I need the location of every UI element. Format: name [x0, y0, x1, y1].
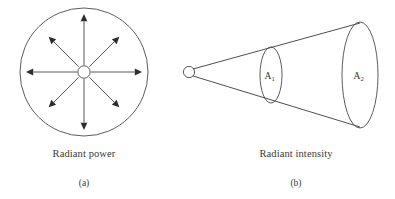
label-a1: A1	[265, 71, 275, 83]
panel-a-diagram	[20, 8, 148, 136]
label-a1-subscript: 1	[271, 75, 274, 82]
radiant-arrow-south	[81, 79, 88, 130]
figure-container: A1 A2 Radiant power Radiant intensity (a…	[0, 0, 395, 199]
panel-b-diagram: A1 A2	[183, 22, 378, 128]
cone-apex-circle	[183, 66, 194, 77]
radiant-arrow-west	[26, 69, 77, 76]
panel-b-tag: (b)	[216, 178, 376, 188]
radiant-arrow-northwest	[49, 37, 79, 67]
point-source-circle	[78, 66, 90, 78]
label-a2: A2	[354, 71, 364, 83]
radiant-arrow-north	[81, 14, 88, 65]
cone-edge-upper	[193, 23, 360, 69]
figure-vector-canvas: A1 A2	[0, 0, 395, 199]
panel-b-caption: Radiant intensity	[216, 148, 376, 159]
radiant-arrow-northeast	[89, 37, 119, 67]
cone-edge-lower	[193, 76, 360, 127]
radiant-arrow-east	[91, 69, 142, 76]
radiant-arrow-southeast	[89, 77, 119, 107]
radiant-arrow-southwest	[49, 77, 79, 107]
label-a2-subscript: 2	[360, 75, 363, 82]
panel-a-caption: Radiant power	[14, 148, 154, 159]
panel-a-tag: (a)	[14, 178, 154, 188]
